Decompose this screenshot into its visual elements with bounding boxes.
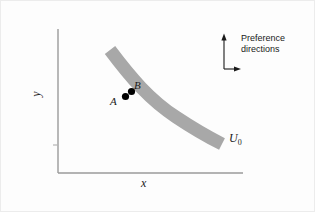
y-axis-label: y <box>30 91 42 96</box>
legend-title-line-2: directions <box>241 44 307 55</box>
curve-label-subscript: 0 <box>238 138 242 147</box>
legend-title-line-1: Preference <box>241 33 307 44</box>
point-marker-a <box>122 93 129 100</box>
x-axis-label: x <box>141 177 146 189</box>
curve-label-u0: U0 <box>229 132 242 147</box>
point-label-a: A <box>110 96 117 107</box>
preference-directions-legend: Preference directions <box>241 33 307 54</box>
point-label-b: B <box>134 80 141 91</box>
indifference-curve-plot <box>0 0 315 212</box>
figure-container: x y U0 A B Preference directions <box>0 0 315 212</box>
curve-label-base: U <box>229 131 238 145</box>
